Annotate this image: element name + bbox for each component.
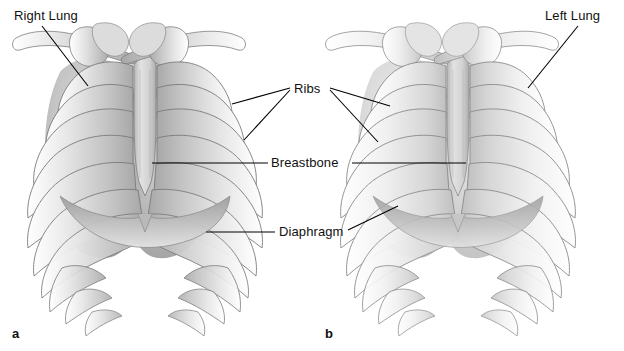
panel-letter-b: b (325, 326, 333, 341)
panel-b-ribcage (326, 23, 576, 336)
anatomy-figure: Right Lung Left Lung Ribs Breastbone Dia… (0, 0, 624, 351)
ribcage-illustration (0, 0, 624, 351)
label-right-lung: Right Lung (14, 9, 78, 22)
label-breastbone: Breastbone (271, 156, 339, 169)
leader-ribs-a-upper (232, 88, 290, 104)
label-diaphragm: Diaphragm (279, 225, 344, 238)
label-ribs: Ribs (294, 82, 320, 95)
panel-letter-a: a (12, 326, 19, 341)
leader-ribs-a-lower (244, 90, 290, 140)
label-left-lung: Left Lung (545, 9, 600, 22)
panel-a-ribcage (13, 23, 263, 336)
